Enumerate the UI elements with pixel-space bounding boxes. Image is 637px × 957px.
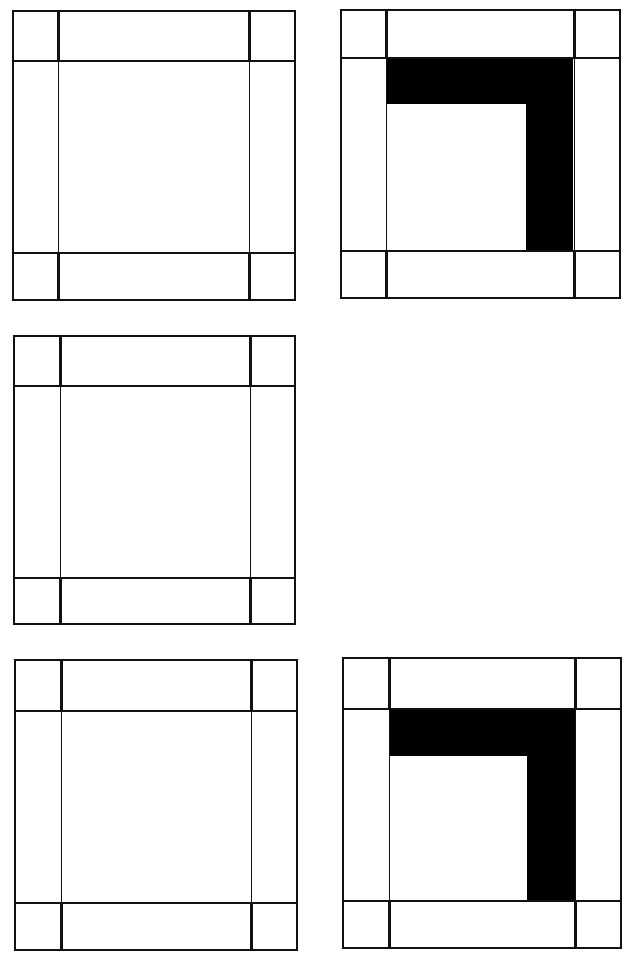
sashing-vertical-line <box>249 60 250 252</box>
sashing-vertical-line <box>575 708 576 900</box>
sashing-horizontal-line <box>342 708 622 710</box>
quilt-block-bottom-left <box>14 659 298 951</box>
sashing-horizontal-line <box>13 577 296 579</box>
corner-divider-line <box>60 659 63 710</box>
corner-divider-line <box>388 900 391 949</box>
sashing-vertical-line <box>60 385 61 577</box>
corner-divider-line <box>574 657 577 708</box>
corner-divider-line <box>250 659 253 710</box>
quilt-block-middle-left <box>13 335 296 625</box>
corner-divider-line <box>60 902 63 951</box>
corner-divider-line <box>248 10 251 60</box>
sashing-horizontal-line <box>342 900 622 902</box>
sashing-horizontal-line <box>340 250 621 252</box>
quilt-block-top-left <box>12 10 296 301</box>
l-shape-right-bar <box>526 58 573 250</box>
corner-divider-line <box>57 252 60 301</box>
sashing-horizontal-line <box>12 252 296 254</box>
corner-divider-line <box>573 250 576 299</box>
corner-divider-line <box>385 250 388 299</box>
corner-divider-line <box>573 9 576 57</box>
sashing-vertical-line <box>574 57 575 250</box>
quilt-block-bottom-right <box>342 657 622 949</box>
sashing-vertical-line <box>251 710 252 902</box>
sashing-vertical-line <box>386 57 387 250</box>
sashing-vertical-line <box>58 60 59 252</box>
corner-divider-line <box>249 335 252 385</box>
sashing-vertical-line <box>250 385 251 577</box>
corner-divider-line <box>385 9 388 57</box>
sashing-horizontal-line <box>14 710 298 712</box>
corner-divider-line <box>388 657 391 708</box>
sashing-horizontal-line <box>340 57 621 59</box>
corner-divider-line <box>249 577 252 625</box>
corner-divider-line <box>248 252 251 301</box>
sashing-horizontal-line <box>13 385 296 387</box>
corner-divider-line <box>574 900 577 949</box>
sashing-vertical-line <box>61 710 62 902</box>
corner-divider-line <box>59 577 62 625</box>
sashing-horizontal-line <box>12 60 296 62</box>
corner-divider-line <box>57 10 60 60</box>
quilt-block-top-right <box>340 9 621 299</box>
sashing-horizontal-line <box>14 902 298 904</box>
corner-divider-line <box>250 902 253 951</box>
corner-divider-line <box>59 335 62 385</box>
l-shape-right-bar <box>527 708 575 900</box>
sashing-vertical-line <box>389 708 390 900</box>
